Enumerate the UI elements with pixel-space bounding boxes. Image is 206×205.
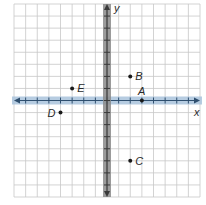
y-axis xyxy=(103,4,111,197)
x-axis-label: x xyxy=(193,106,200,118)
point-label: C xyxy=(135,155,143,167)
point-marker-icon xyxy=(128,74,132,78)
point-label: D xyxy=(48,107,56,119)
point-label: E xyxy=(77,82,85,94)
point-label: B xyxy=(135,70,142,82)
point-marker-icon xyxy=(70,86,74,90)
point-marker-icon xyxy=(59,111,63,115)
coordinate-plane: x y ABCDE xyxy=(0,0,206,205)
point-marker-icon xyxy=(128,159,132,163)
point-label: A xyxy=(137,85,145,97)
point-marker-icon xyxy=(140,99,144,103)
